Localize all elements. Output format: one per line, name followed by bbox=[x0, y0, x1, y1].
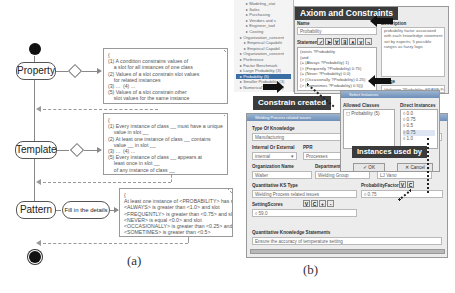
forward-icon[interactable]: ➤ bbox=[325, 38, 332, 45]
view-button[interactable]: V bbox=[399, 181, 406, 188]
note-pattern: { At least one instance of <PROBABILITY>… bbox=[119, 188, 233, 237]
cancel-label: Cancel bbox=[410, 165, 424, 170]
ppr-label: PPR bbox=[303, 145, 312, 150]
setting-value: 59.0 bbox=[259, 211, 268, 216]
return-dashed-line bbox=[188, 237, 189, 243]
direct-instance-item[interactable]: ◊ 1.0 bbox=[403, 136, 435, 142]
return-dashed-line bbox=[38, 243, 188, 244]
add-button[interactable]: + bbox=[319, 200, 326, 207]
setting-label: SettingScores bbox=[252, 202, 283, 207]
start-node bbox=[29, 43, 41, 55]
class-tree[interactable]: ▸ Modeling_stat▸ Sales▸ Purchasing▸ Vend… bbox=[234, 0, 294, 92]
return-dashed-line bbox=[38, 182, 171, 183]
remove-button[interactable]: - bbox=[327, 200, 334, 207]
org-label: Organization Name bbox=[252, 164, 294, 169]
note-template: { (1) Every instance of class __ must ha… bbox=[103, 113, 228, 175]
arrow-icon bbox=[375, 78, 391, 84]
arrow-icon bbox=[97, 147, 102, 153]
state-fill-details[interactable]: Fill in the details bbox=[62, 201, 110, 219]
select-instances-window: Select Instances Allowed Classes ◻ Proba… bbox=[340, 90, 440, 172]
note-property: { (1) A condition constrains values of a… bbox=[103, 48, 228, 104]
statement-line: (> (Occasionally ?Probability) 0.25) bbox=[300, 77, 374, 83]
dept-field[interactable]: Welding Group bbox=[315, 171, 370, 179]
return-dashed-line bbox=[38, 109, 158, 110]
ok-label: OK bbox=[368, 165, 375, 170]
name-field[interactable]: Probability bbox=[297, 27, 377, 35]
dotted-pointer bbox=[427, 138, 429, 193]
dept-label: Department bbox=[315, 164, 341, 169]
direct-instances-header: Direct Instances bbox=[400, 103, 436, 108]
allowed-class-item[interactable]: ◻ Probability (5) bbox=[346, 111, 392, 117]
view-button[interactable]: V bbox=[303, 200, 310, 207]
create-button[interactable]: C bbox=[311, 200, 318, 207]
arrow-icon bbox=[97, 68, 102, 74]
probability-label: ProbabilityFactor bbox=[361, 183, 399, 188]
check-icon[interactable]: ✓ bbox=[317, 38, 324, 45]
org-field[interactable]: Walter bbox=[252, 171, 312, 179]
chevron-down-icon: ▾ bbox=[291, 153, 294, 160]
state-pattern[interactable]: Pattern bbox=[16, 201, 56, 219]
allowed-classes-list[interactable]: ◻ Probability (5) bbox=[343, 109, 395, 149]
statement-label: Statement bbox=[297, 40, 319, 45]
internal-value: internal bbox=[255, 154, 270, 159]
direct-instances-list[interactable]: ◊ 0.0◊ 0.75◊ 0.5◊ 0.75◊ 1.0 bbox=[400, 109, 438, 149]
name-label: Name bbox=[297, 21, 310, 26]
internal-label: Internal Or External bbox=[252, 145, 295, 150]
caption-a: (a) bbox=[127, 253, 141, 269]
connector bbox=[56, 71, 68, 72]
arrow-icon bbox=[377, 18, 393, 24]
caption-b: (b) bbox=[303, 262, 318, 278]
arrow-icon bbox=[263, 84, 277, 90]
internal-select[interactable]: internal▾ bbox=[252, 152, 297, 160]
description-field[interactable]: probability factor associated with each … bbox=[381, 27, 445, 77]
ok-button[interactable]: ✓ OK bbox=[353, 163, 385, 172]
not-icon[interactable]: ¬ bbox=[365, 38, 372, 45]
probability-value: 0.75 bbox=[368, 192, 377, 197]
select-titlebar: Select Instances bbox=[341, 91, 439, 98]
statement-toolbar: ✓➤∀∃∧∨¬ bbox=[317, 38, 372, 46]
owner-field[interactable]: LJ Vano bbox=[377, 171, 432, 179]
decision-diamond bbox=[70, 143, 84, 157]
statements-label: Quantitative Knowledge Statements bbox=[252, 230, 330, 235]
setting-field[interactable]: ◊ 59.0 bbox=[252, 209, 357, 217]
state-property[interactable]: Property bbox=[16, 62, 56, 80]
allowed-classes-header: Allowed Classes bbox=[343, 103, 379, 108]
arrow-icon bbox=[36, 106, 41, 112]
constrain-created-label: Constrain created bbox=[253, 96, 331, 110]
end-node bbox=[29, 251, 41, 263]
return-dashed-line bbox=[171, 175, 172, 182]
horizontal-scrollbar[interactable] bbox=[250, 249, 445, 254]
state-template[interactable]: Template bbox=[15, 141, 57, 159]
arrow-icon bbox=[36, 240, 41, 246]
exists-icon[interactable]: ∃ bbox=[341, 38, 348, 45]
or-icon[interactable]: ∨ bbox=[357, 38, 364, 45]
create-button[interactable]: C bbox=[407, 181, 414, 188]
connector bbox=[57, 150, 69, 151]
instances-used-label: Instances used by bbox=[352, 146, 427, 158]
decision-diamond bbox=[68, 64, 82, 78]
ks-type-label: Quantitative KS Type bbox=[252, 183, 298, 188]
ks-type-field[interactable]: Welding Process related issues bbox=[252, 190, 357, 198]
arrow-icon bbox=[36, 179, 41, 185]
type-label: Type Of Knowledge bbox=[252, 126, 295, 131]
statements-field[interactable]: Ensure the accuracy of temperature setti… bbox=[252, 237, 442, 245]
for-all-icon[interactable]: ∀ bbox=[333, 38, 340, 45]
connector bbox=[56, 210, 61, 211]
and-icon[interactable]: ∧ bbox=[349, 38, 356, 45]
